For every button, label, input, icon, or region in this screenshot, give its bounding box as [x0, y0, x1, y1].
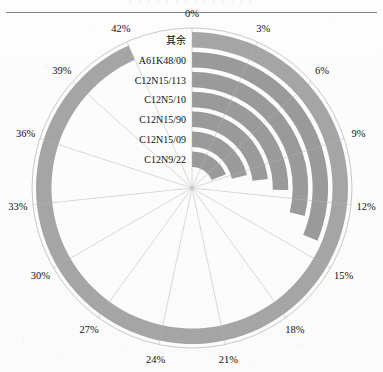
category-label: A61K48/00	[139, 55, 186, 66]
grid-spoke	[192, 188, 286, 317]
chart-category-labels: 其余A61K48/00C12N15/113C12N5/10C12N15/90C1…	[135, 34, 186, 165]
grid-spoke	[33, 188, 192, 205]
axis-tick-label: 0%	[185, 8, 199, 19]
category-label: C12N5/10	[144, 94, 186, 105]
axis-tick-label: 27%	[80, 324, 100, 335]
grid-spoke	[98, 188, 192, 317]
axis-tick-label: 9%	[351, 128, 365, 139]
axis-tick-label: 33%	[8, 201, 28, 212]
axis-tick-label: 36%	[16, 128, 36, 139]
category-label: C12N15/113	[135, 75, 186, 86]
category-label: C12N15/90	[139, 114, 186, 125]
axis-tick-label: 15%	[334, 270, 354, 281]
category-label: C12N9/22	[144, 154, 186, 165]
grid-spoke	[159, 188, 192, 345]
axis-tick-label: 24%	[146, 354, 166, 365]
axis-tick-label: 18%	[285, 324, 305, 335]
axis-tick-label: 42%	[111, 23, 131, 34]
radial-bar-chart: 0%3%6%9%12%15%18%21%24%27%30%33%36%39%42…	[0, 0, 383, 372]
grid-spoke	[192, 188, 225, 345]
grid-spoke	[53, 188, 192, 268]
category-label: C12N15/09	[139, 134, 186, 145]
axis-tick-label: 6%	[315, 65, 329, 76]
axis-tick-label: 12%	[356, 201, 376, 212]
axis-tick-label: 39%	[52, 65, 72, 76]
axis-tick-label: 3%	[256, 23, 270, 34]
category-label: 其余	[166, 34, 186, 46]
axis-tick-label: 21%	[219, 354, 239, 365]
axis-tick-label: 30%	[31, 270, 51, 281]
